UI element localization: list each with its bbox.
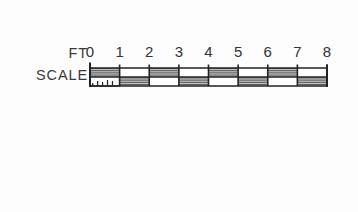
scale-tick-label-2: 2 xyxy=(140,44,158,60)
scale-tick-label-6: 6 xyxy=(259,44,277,60)
scale-bar-graphic xyxy=(90,66,328,90)
scale-tick-label-5: 5 xyxy=(229,44,247,60)
scale-bar-figure: FT SCALE 012345678 xyxy=(0,0,358,212)
scale-segment-7-8 xyxy=(297,77,327,86)
scale-segment-0-1 xyxy=(90,68,120,77)
scale-tick-label-1: 1 xyxy=(111,44,129,60)
scale-tick-labels: 012345678 xyxy=(0,44,358,62)
scale-tick-label-4: 4 xyxy=(200,44,218,60)
scale-segment-4-5 xyxy=(209,68,239,77)
scale-segment-5-6 xyxy=(238,77,268,86)
scale-segment-6-7 xyxy=(268,68,298,77)
scale-segment-1-2 xyxy=(120,77,150,86)
scale-segment-3-4 xyxy=(179,77,209,86)
scale-tick-label-3: 3 xyxy=(170,44,188,60)
scale-tick-label-8: 8 xyxy=(318,44,336,60)
scale-tick-label-7: 7 xyxy=(288,44,306,60)
scale-segment-2-3 xyxy=(149,68,179,77)
scale-label: SCALE xyxy=(26,68,88,83)
scale-bar xyxy=(90,66,328,90)
scale-tick-label-0: 0 xyxy=(81,44,99,60)
